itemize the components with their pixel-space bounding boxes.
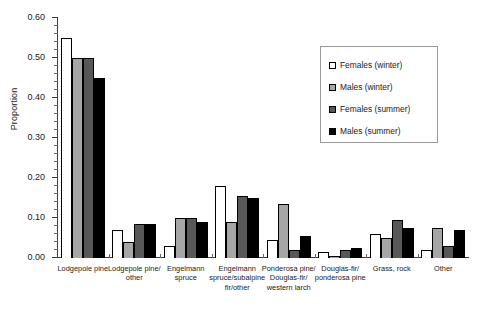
y-tick-label: 0.10 — [27, 212, 45, 222]
bar-group — [57, 18, 109, 258]
bar — [215, 186, 226, 258]
y-tick-label: 0.20 — [27, 172, 45, 182]
bar — [197, 222, 208, 258]
bar — [351, 248, 362, 258]
bar — [381, 238, 392, 258]
y-tick-label: 0.40 — [27, 92, 45, 102]
bar — [421, 250, 432, 258]
bar-group-bars — [109, 18, 161, 258]
bar — [145, 224, 156, 258]
bar — [164, 246, 175, 258]
x-group-separator — [315, 254, 316, 258]
legend-swatch-icon — [329, 62, 336, 69]
legend-item: Males (winter) — [321, 76, 437, 98]
legend-label: Females (summer) — [340, 104, 410, 114]
bar-chart-figure: Proportion 0.000.100.200.300.400.500.60 … — [0, 0, 484, 318]
y-tick-label: 0.30 — [27, 132, 45, 142]
bar-group — [263, 18, 315, 258]
bar-group-bars — [263, 18, 315, 258]
bar — [392, 220, 403, 258]
bar — [175, 218, 186, 258]
legend-item: Males (summer) — [321, 120, 437, 142]
x-group-separator — [418, 254, 419, 258]
legend-item: Females (winter) — [321, 54, 437, 76]
y-tick-label: 0.00 — [27, 252, 45, 262]
y-tick-label: 0.50 — [27, 52, 45, 62]
bar — [318, 252, 329, 258]
bar-group — [212, 18, 264, 258]
bar — [94, 78, 105, 258]
legend-swatch-icon — [329, 106, 336, 113]
bar — [72, 58, 83, 258]
bar — [237, 196, 248, 258]
bar — [248, 198, 259, 258]
legend-label: Males (winter) — [340, 82, 393, 92]
y-tick-label-anchor: 0.40 — [51, 97, 52, 98]
bar — [340, 250, 351, 258]
y-tick-label-anchor: 0.30 — [51, 137, 52, 138]
bar-group — [160, 18, 212, 258]
bar — [278, 204, 289, 258]
bar — [329, 256, 340, 258]
bar — [289, 250, 300, 258]
bar-group-bars — [57, 18, 109, 258]
bar — [112, 230, 123, 258]
legend-label: Females (winter) — [340, 60, 402, 70]
bar — [454, 230, 465, 258]
bar — [432, 228, 443, 258]
legend-swatch-icon — [329, 84, 336, 91]
bar — [61, 38, 72, 258]
legend: Females (winter)Males (winter)Females (s… — [320, 46, 438, 143]
x-group-separator — [366, 254, 367, 258]
legend-item: Females (summer) — [321, 98, 437, 120]
y-tick-label-anchor: 0.20 — [51, 177, 52, 178]
bar — [370, 234, 381, 258]
bar — [443, 246, 454, 258]
bar — [134, 224, 145, 258]
bar — [403, 228, 414, 258]
bar-group-bars — [212, 18, 264, 258]
bar — [226, 222, 237, 258]
legend-label: Males (summer) — [340, 126, 401, 136]
x-tick-label: Other — [410, 264, 478, 273]
y-tick-label-anchor: 0.50 — [51, 57, 52, 58]
x-group-separator — [212, 254, 213, 258]
bar-group — [109, 18, 161, 258]
y-tick-label-anchor: 0.00 — [51, 257, 52, 258]
legend-swatch-icon — [329, 128, 336, 135]
y-tick-label-anchor: 0.60 — [51, 17, 52, 18]
x-group-separator — [263, 254, 264, 258]
y-axis-title: Proportion — [9, 69, 19, 149]
x-group-separator — [109, 254, 110, 258]
x-group-separator — [160, 254, 161, 258]
y-tick-label-anchor: 0.10 — [51, 217, 52, 218]
bar — [83, 58, 94, 258]
bar — [186, 218, 197, 258]
y-tick-label: 0.60 — [27, 12, 45, 22]
bar — [300, 236, 311, 258]
bar — [123, 242, 134, 258]
bar-group-bars — [160, 18, 212, 258]
bar — [267, 240, 278, 258]
